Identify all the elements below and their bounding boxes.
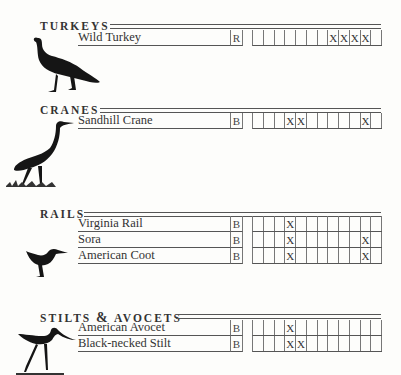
month-cell (371, 336, 382, 351)
month-cell (253, 336, 264, 351)
month-cell: X (339, 30, 350, 45)
species-name: American Coot (78, 248, 230, 264)
month-cell (328, 216, 339, 231)
month-cell (371, 216, 382, 231)
rail-silhouette-icon (26, 246, 70, 280)
month-cell (371, 248, 382, 263)
month-cell: X (361, 113, 372, 128)
month-cell: X (285, 248, 296, 263)
species-name: Black-necked Stilt (78, 336, 230, 352)
month-cell (264, 232, 275, 247)
stilt-silhouette-icon (14, 326, 78, 375)
month-cell: X (285, 216, 296, 231)
species-name: American Avocet (78, 320, 230, 336)
month-cell: X (285, 232, 296, 247)
month-grid: X X X X (252, 30, 382, 46)
double-rule (176, 314, 381, 319)
month-cell (253, 248, 264, 263)
month-cell: X (296, 113, 307, 128)
month-cell (371, 232, 382, 247)
species-name: Sora (78, 232, 230, 248)
month-cell (253, 216, 264, 231)
month-cell (318, 232, 329, 247)
month-cell: X (285, 320, 296, 335)
status-code: B (230, 248, 243, 264)
month-cell (350, 248, 361, 263)
month-cell (253, 113, 264, 128)
species-row: Virginia Rail B X (78, 216, 381, 232)
month-cell: X (361, 248, 372, 263)
month-cell (307, 320, 318, 335)
month-cell (371, 30, 382, 45)
month-cell: X (296, 336, 307, 351)
species-row: Sandhill Crane B X X X (78, 113, 381, 129)
month-cell (350, 320, 361, 335)
month-cell (328, 336, 339, 351)
month-cell (307, 248, 318, 263)
month-cell (264, 113, 275, 128)
month-cell (328, 113, 339, 128)
month-cell: X (350, 30, 361, 45)
month-cell (318, 30, 329, 45)
month-cell (275, 113, 286, 128)
species-name: Sandhill Crane (78, 113, 230, 129)
month-cell (350, 113, 361, 128)
month-cell (318, 113, 329, 128)
status-code: R (230, 30, 243, 46)
month-cell (264, 248, 275, 263)
month-grid: X X X (252, 113, 382, 129)
month-cell (328, 248, 339, 263)
month-cell (285, 30, 296, 45)
month-cell (307, 216, 318, 231)
month-cell (296, 248, 307, 263)
month-cell (253, 232, 264, 247)
month-cell (307, 113, 318, 128)
month-cell (318, 248, 329, 263)
month-cell (318, 336, 329, 351)
month-cell (307, 232, 318, 247)
month-cell (328, 232, 339, 247)
month-cell (275, 336, 286, 351)
status-code: B (230, 320, 243, 336)
month-cell (296, 320, 307, 335)
month-cell (275, 320, 286, 335)
month-cell (339, 216, 350, 231)
month-grid: X (252, 216, 382, 232)
status-code: B (230, 113, 243, 129)
month-cell: X (285, 113, 296, 128)
month-cell (339, 336, 350, 351)
month-cell (275, 30, 286, 45)
month-cell (318, 216, 329, 231)
month-cell (339, 320, 350, 335)
month-cell (350, 216, 361, 231)
month-cell (275, 232, 286, 247)
month-cell (371, 320, 382, 335)
month-cell (318, 320, 329, 335)
month-cell (307, 30, 318, 45)
month-cell (253, 320, 264, 335)
month-cell: X (285, 336, 296, 351)
month-cell: X (328, 30, 339, 45)
crane-silhouette-icon (4, 120, 76, 190)
month-cell: X (361, 232, 372, 247)
month-grid: X (252, 320, 382, 336)
month-cell (361, 216, 372, 231)
month-cell: X (361, 30, 372, 45)
month-cell (339, 113, 350, 128)
month-cell (307, 336, 318, 351)
month-cell (264, 30, 275, 45)
month-cell (361, 320, 372, 335)
species-row: American Avocet B X (78, 320, 381, 336)
month-grid: X X (252, 248, 382, 264)
species-row: Wild Turkey R X X X X (78, 30, 381, 46)
month-cell (339, 232, 350, 247)
species-name: Wild Turkey (78, 30, 230, 46)
species-name: Virginia Rail (78, 216, 230, 232)
month-cell (275, 216, 286, 231)
month-cell (371, 113, 382, 128)
month-cell (296, 216, 307, 231)
month-cell (264, 336, 275, 351)
month-cell (264, 320, 275, 335)
month-cell (339, 248, 350, 263)
month-cell (296, 232, 307, 247)
